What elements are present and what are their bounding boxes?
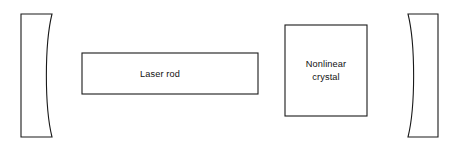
laser-cavity-diagram: Laser rod Nonlinear crystal — [0, 0, 459, 147]
laser-rod-label: Laser rod — [140, 69, 180, 79]
nonlinear-crystal-box — [285, 25, 367, 116]
diagram-canvas: Laser rod Nonlinear crystal — [0, 0, 459, 147]
right-concave-mirror — [408, 14, 438, 137]
left-concave-mirror — [21, 14, 52, 137]
nonlinear-crystal-label-line1: Nonlinear — [306, 59, 347, 69]
nonlinear-crystal-label-line2: crystal — [312, 72, 340, 82]
